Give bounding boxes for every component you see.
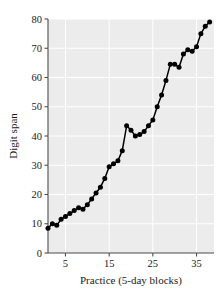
data-point — [67, 211, 72, 216]
data-point — [172, 62, 177, 67]
data-point — [155, 104, 160, 109]
data-point — [137, 132, 142, 137]
data-point — [120, 148, 125, 153]
data-point — [203, 24, 208, 29]
y-tick-label-30: 30 — [32, 160, 43, 171]
y-tick-label-70: 70 — [32, 43, 43, 54]
data-point — [102, 176, 107, 181]
data-point — [59, 217, 64, 222]
data-point — [98, 185, 103, 190]
data-point — [46, 226, 51, 231]
data-point — [198, 31, 203, 36]
data-point — [80, 207, 85, 212]
data-point — [72, 208, 77, 213]
figure-container: 01020304050607080 5152535 Practice (5-da… — [0, 0, 222, 295]
data-point — [185, 47, 190, 52]
y-axis-tick-labels: 01020304050607080 — [32, 14, 43, 259]
x-tick-label-35: 35 — [191, 258, 202, 269]
y-axis-title: Digit span — [7, 113, 19, 159]
data-point — [177, 65, 182, 70]
data-point — [181, 52, 186, 57]
data-point — [190, 49, 195, 54]
data-point — [129, 128, 134, 133]
x-tick-label-5: 5 — [63, 258, 68, 269]
data-point — [142, 129, 147, 134]
y-tick-label-60: 60 — [32, 72, 43, 83]
y-tick-label-20: 20 — [32, 189, 43, 200]
y-tick-label-50: 50 — [32, 101, 43, 112]
x-tick-label-25: 25 — [148, 258, 159, 269]
y-tick-label-0: 0 — [37, 248, 42, 259]
data-point — [111, 161, 116, 166]
data-point — [150, 117, 155, 122]
y-tick-label-40: 40 — [32, 131, 43, 142]
data-point — [124, 123, 129, 128]
data-point — [207, 19, 212, 24]
data-point — [89, 196, 94, 201]
digit-span-learning-curve-chart: 01020304050607080 5152535 Practice (5-da… — [0, 0, 222, 295]
data-point — [168, 62, 173, 67]
x-tick-label-15: 15 — [104, 258, 115, 269]
data-point — [76, 205, 81, 210]
x-axis-title: Practice (5-day blocks) — [80, 274, 182, 287]
data-point — [94, 191, 99, 196]
data-point — [163, 78, 168, 83]
data-point — [85, 202, 90, 207]
data-point — [50, 221, 55, 226]
data-point — [107, 164, 112, 169]
data-point — [133, 134, 138, 139]
data-point — [159, 93, 164, 98]
data-point — [146, 123, 151, 128]
data-point — [54, 223, 59, 228]
data-point — [63, 214, 68, 219]
x-axis-tick-labels: 5152535 — [63, 258, 202, 269]
y-tick-label-10: 10 — [32, 218, 43, 229]
data-point — [194, 44, 199, 49]
data-point — [115, 158, 120, 163]
y-tick-label-80: 80 — [32, 14, 43, 25]
